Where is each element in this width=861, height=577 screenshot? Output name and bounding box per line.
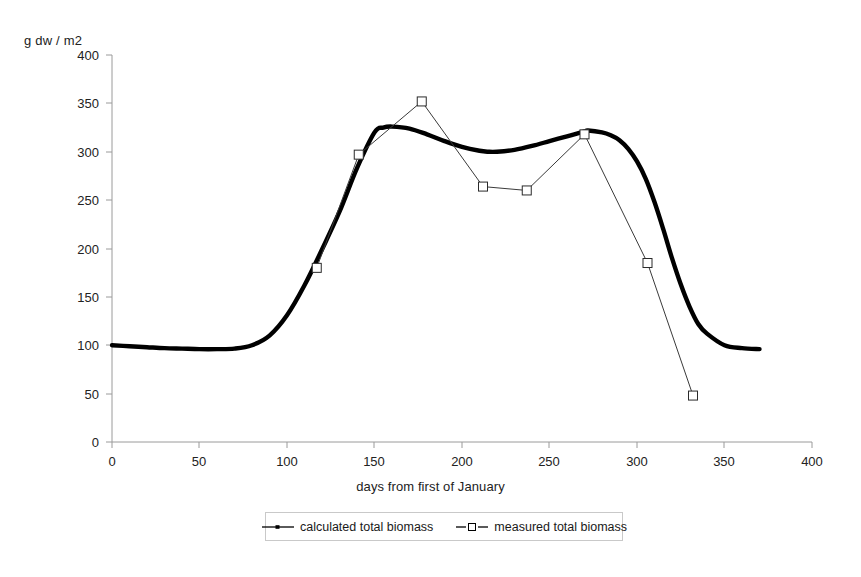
chart-container: g dw / m2 400 350 300 250 200 150 100 50 <box>0 0 861 577</box>
y-tick-label-200: 200 <box>77 242 99 257</box>
measured-data-point <box>354 150 363 159</box>
measured-total-biomass-line <box>317 101 693 395</box>
x-axis: 0 50 100 150 200 250 300 350 400 <box>108 442 822 469</box>
y-tick-label-400: 400 <box>77 48 99 63</box>
measured-data-point <box>522 186 531 195</box>
measured-data-point <box>643 259 652 268</box>
x-tick-label-100: 100 <box>276 454 298 469</box>
x-tick-label-250: 250 <box>538 454 560 469</box>
x-tick-label-300: 300 <box>626 454 648 469</box>
x-axis-ticks <box>112 442 812 448</box>
legend-label-measured: measured total biomass <box>494 520 627 534</box>
x-tick-label-200: 200 <box>451 454 473 469</box>
measured-data-point <box>689 391 698 400</box>
legend-entry-calculated[interactable]: calculated total biomass <box>261 520 433 534</box>
measured-data-point <box>312 263 321 272</box>
data-series-layer <box>112 97 760 400</box>
y-tick-label-0: 0 <box>92 435 99 450</box>
y-tick-label-250: 250 <box>77 193 99 208</box>
x-tick-label-400: 400 <box>801 454 823 469</box>
legend-label-calculated: calculated total biomass <box>300 520 433 534</box>
x-axis-title: days from first of January <box>0 479 861 494</box>
y-tick-label-300: 300 <box>77 145 99 160</box>
y-tick-label-50: 50 <box>85 387 99 402</box>
calculated-total-biomass-line <box>112 127 760 350</box>
y-tick-label-350: 350 <box>77 96 99 111</box>
y-tick-label-150: 150 <box>77 290 99 305</box>
x-tick-label-0: 0 <box>108 454 115 469</box>
measured-data-point <box>417 97 426 106</box>
y-axis-ticks <box>106 55 112 442</box>
y-axis: 400 350 300 250 200 150 100 50 0 <box>77 48 112 450</box>
measured-data-point <box>580 130 589 139</box>
legend-entry-measured[interactable]: measured total biomass <box>455 520 627 534</box>
chart-legend: calculated total biomass measured total … <box>265 512 623 541</box>
x-tick-label-150: 150 <box>363 454 385 469</box>
y-tick-label-100: 100 <box>77 338 99 353</box>
legend-line-icon-calculated <box>261 521 295 533</box>
measured-data-point <box>479 182 488 191</box>
x-tick-label-50: 50 <box>192 454 206 469</box>
x-tick-label-350: 350 <box>713 454 735 469</box>
legend-square-marker-icon-measured <box>455 521 489 533</box>
